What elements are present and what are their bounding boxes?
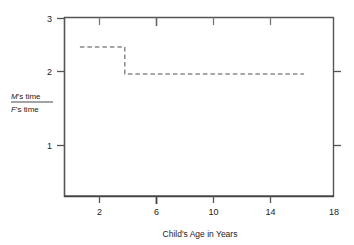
chart-canvas: 3 2 1 2 6 10 14 18 M's time F's time Chi… [0, 0, 354, 245]
x-axis-top-ticks [100, 18, 271, 27]
y-tick-label-1: 1 [47, 141, 52, 151]
y-axis-right-ticks [334, 72, 342, 146]
chart-figure: 3 2 1 2 6 10 14 18 M's time F's time Chi… [0, 0, 354, 245]
x-axis-title: Child's Age in Years [163, 229, 238, 239]
x-tick-label-6: 6 [154, 207, 159, 217]
y-axis-title-denominator: F's time [11, 105, 39, 114]
y-axis-ticks [57, 19, 65, 146]
x-tick-label-2: 2 [97, 207, 102, 217]
y-axis-title-numerator: M's time [11, 92, 41, 101]
plot-frame [64, 17, 334, 197]
x-tick-label-14: 14 [265, 207, 275, 217]
x-tick-label-10: 10 [208, 207, 218, 217]
x-tick-label-18: 18 [329, 207, 339, 217]
step-line-path [80, 47, 304, 74]
y-tick-label-3: 3 [47, 14, 52, 24]
y-tick-label-2: 2 [47, 67, 52, 77]
data-series-ratio [80, 47, 304, 74]
y-axis-title-fraction: M's time F's time [11, 92, 53, 114]
